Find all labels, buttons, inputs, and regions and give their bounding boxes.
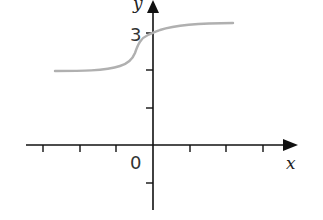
x-axis-label: x [286, 153, 296, 173]
graph: y x 0 3 [0, 0, 323, 220]
origin-label: 0 [130, 152, 141, 173]
y-axis-arrow-icon [147, 0, 159, 13]
x-axis-arrow-icon [283, 139, 298, 151]
y-tick-label-3: 3 [130, 24, 141, 45]
y-ticks [146, 33, 153, 183]
curve [55, 23, 233, 71]
y-axis-label: y [132, 0, 143, 13]
